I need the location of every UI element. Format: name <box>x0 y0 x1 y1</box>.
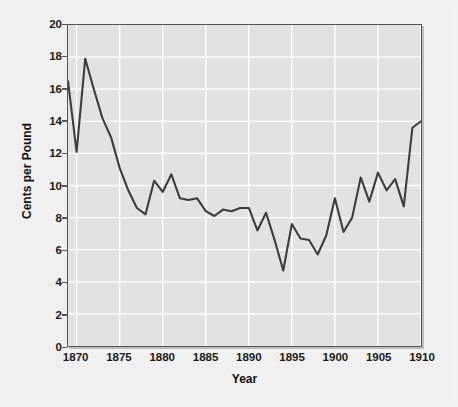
y-tick-label: 2 <box>2 309 62 321</box>
y-tick-label: 10 <box>2 180 62 192</box>
y-tick-label: 20 <box>2 18 62 30</box>
x-tick-label: 1910 <box>392 351 452 363</box>
y-tick-label: 14 <box>2 115 62 127</box>
y-tick-label: 6 <box>2 244 62 256</box>
x-axis-label: Year <box>67 372 422 386</box>
y-tick-label: 18 <box>2 50 62 62</box>
y-tick-label: 8 <box>2 212 62 224</box>
y-tick-label: 4 <box>2 276 62 288</box>
y-tick-label: 12 <box>2 147 62 159</box>
plot-area <box>67 24 422 347</box>
x-axis-tick-labels: 187018751880188518901895190019051910 <box>67 351 422 371</box>
y-axis-tick-labels: 02468101214161820 <box>0 24 62 347</box>
y-tick-label: 16 <box>2 83 62 95</box>
chart-figure: Cents per Pound 02468101214161820 187018… <box>0 0 458 407</box>
data-series-line <box>68 25 421 346</box>
